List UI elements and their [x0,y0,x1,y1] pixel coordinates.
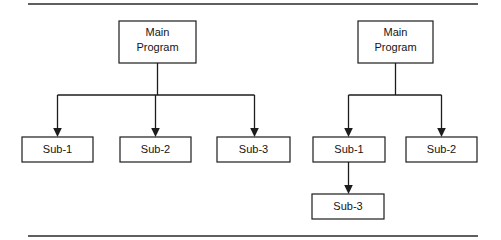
left-structure-chart: Main Program Sub-1 Sub-2 Sub-3 [22,21,290,162]
right-main-program-label-line2: Program [374,41,416,53]
right-arrow-sub-3 [344,185,353,194]
right-structure-chart: Main Program Sub-1 Sub-2 Sub-3 [312,21,477,219]
left-main-program-label-line1: Main [146,26,170,38]
left-sub-3-label: Sub-3 [239,143,268,155]
node-right-sub-1[interactable]: Sub-1 [313,137,385,162]
left-sub-2-label: Sub-2 [141,143,170,155]
node-right-sub-3[interactable]: Sub-3 [312,194,384,219]
node-right-main-program[interactable]: Main Program [358,21,433,63]
node-left-sub-3[interactable]: Sub-3 [217,137,290,162]
right-main-program-label-line1: Main [384,26,408,38]
left-arrow-sub-1 [53,128,62,137]
left-arrow-sub-2 [151,128,160,137]
left-sub-1-label: Sub-1 [43,143,72,155]
diagram-canvas-container: Main Program Sub-1 Sub-2 Sub-3 [0,0,501,240]
left-arrow-sub-3 [250,128,259,137]
right-sub-1-label: Sub-1 [334,143,363,155]
structure-chart-diagram: Main Program Sub-1 Sub-2 Sub-3 [0,0,501,240]
left-main-program-label-line2: Program [136,41,178,53]
right-arrow-sub-1 [344,128,353,137]
right-sub-2-label: Sub-2 [427,143,456,155]
node-right-sub-2[interactable]: Sub-2 [406,137,477,162]
right-arrow-sub-2 [437,128,446,137]
node-left-sub-1[interactable]: Sub-1 [22,137,93,162]
node-left-main-program[interactable]: Main Program [119,21,196,63]
node-left-sub-2[interactable]: Sub-2 [120,137,191,162]
right-sub-3-label: Sub-3 [333,200,362,212]
